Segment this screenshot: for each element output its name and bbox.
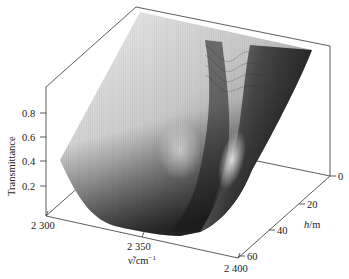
z-tick-0.8: 0.8 [22,108,35,119]
surface-plot: 0.8 0.6 0.4 0.2 Transmittance 2 300 2 35… [0,0,349,279]
z-axis-label: Transmittance [6,136,17,196]
y-tick-40: 40 [277,225,288,236]
x-tick-2400: 2 400 [224,263,248,274]
z-axis [40,113,46,186]
x-tick-2300: 2 300 [31,220,55,231]
transmittance-surface [60,12,312,236]
y-tick-60: 60 [247,251,258,262]
z-tick-0.6: 0.6 [22,132,35,143]
x-axis-label: ν̃/cm−1 [128,254,156,266]
x-tick-2350: 2 350 [127,241,151,252]
y-axis-label: h/m [304,219,320,230]
y-tick-20: 20 [307,199,318,210]
y-tick-0: 0 [338,171,343,182]
z-tick-0.4: 0.4 [22,156,36,167]
z-tick-0.2: 0.2 [22,181,35,192]
